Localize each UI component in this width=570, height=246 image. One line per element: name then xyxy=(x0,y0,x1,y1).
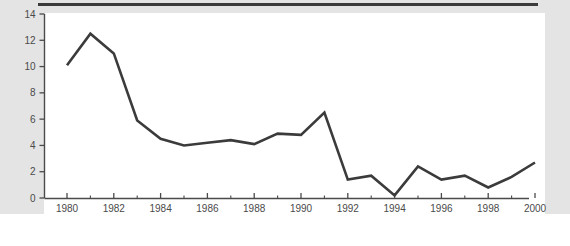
y-tick-label: 4 xyxy=(30,140,36,151)
x-tick-label: 1992 xyxy=(337,203,360,214)
x-tick-label: 1986 xyxy=(196,203,219,214)
x-axis-tick-labels: 1980198219841986198819901992199419961998… xyxy=(56,203,547,214)
y-tick-label: 0 xyxy=(30,193,36,204)
y-axis-ticks xyxy=(40,14,45,198)
x-tick-label: 1988 xyxy=(243,203,266,214)
y-tick-label: 10 xyxy=(24,61,36,72)
x-tick-label: 1984 xyxy=(149,203,172,214)
data-series-line xyxy=(67,34,535,196)
y-tick-label: 8 xyxy=(30,87,36,98)
x-tick-label: 2000 xyxy=(524,203,547,214)
x-tick-label: 1990 xyxy=(290,203,313,214)
x-tick-label: 1980 xyxy=(56,203,79,214)
chart-figure: 02468101214 1980198219841986198819901992… xyxy=(0,0,570,246)
x-tick-label: 1998 xyxy=(477,203,500,214)
x-tick-label: 1994 xyxy=(383,203,406,214)
y-axis-tick-labels: 02468101214 xyxy=(24,9,36,204)
y-tick-label: 2 xyxy=(30,166,36,177)
x-tick-label: 1996 xyxy=(430,203,453,214)
y-tick-label: 14 xyxy=(24,9,36,20)
y-tick-label: 12 xyxy=(24,35,36,46)
y-tick-label: 6 xyxy=(30,114,36,125)
x-tick-label: 1982 xyxy=(103,203,126,214)
line-chart: 02468101214 1980198219841986198819901992… xyxy=(0,0,570,246)
